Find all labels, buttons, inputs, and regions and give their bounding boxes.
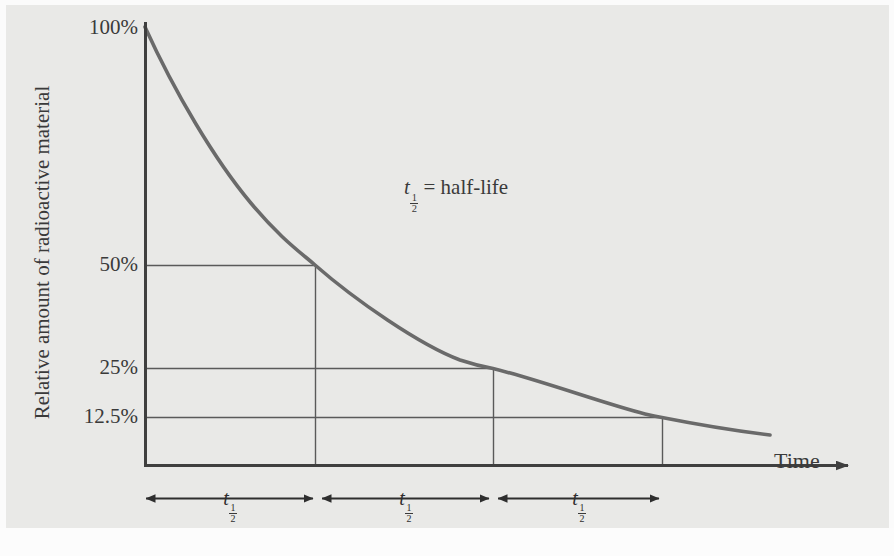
interval-3-fraction: 12: [578, 503, 585, 524]
x-axis-title: Time: [774, 448, 820, 474]
half-life-symbol-base: t: [404, 175, 410, 199]
interval-2-denominator: 2: [405, 514, 412, 524]
y-axis-title: Relative amount of radioactive material: [30, 43, 55, 463]
half-life-definition-text: half-life: [441, 175, 509, 199]
interval-1-denominator: 2: [229, 514, 236, 524]
interval-3-symbol-base: t: [572, 487, 578, 509]
half-life-interval-label-3: t12: [549, 487, 609, 525]
interval-2-fraction: 12: [405, 503, 412, 524]
half-life-definition-annotation: t12 = half-life: [404, 175, 508, 215]
y-tick-label-12-5: 12.5%: [48, 406, 138, 427]
half-life-equals-sign: =: [423, 175, 435, 199]
interval-2-symbol-base: t: [399, 487, 405, 509]
half-life-fraction-denominator: 2: [410, 204, 418, 215]
y-tick-label-50: 50%: [68, 254, 138, 275]
half-life-symbol-fraction: 12: [410, 193, 418, 215]
decay-curve-figure: [0, 0, 894, 556]
half-life-interval-label-1: t12: [200, 487, 260, 525]
interval-1-symbol-base: t: [223, 487, 229, 509]
interval-1-fraction: 12: [229, 503, 236, 524]
y-tick-label-25: 25%: [68, 357, 138, 378]
interval-3-denominator: 2: [578, 514, 585, 524]
y-tick-label-100: 100%: [68, 17, 138, 38]
figure-container: 100% 50% 25% 12.5% Relative amount of ra…: [0, 0, 894, 556]
decay-curve: [145, 27, 770, 435]
half-life-interval-label-2: t12: [376, 487, 436, 525]
